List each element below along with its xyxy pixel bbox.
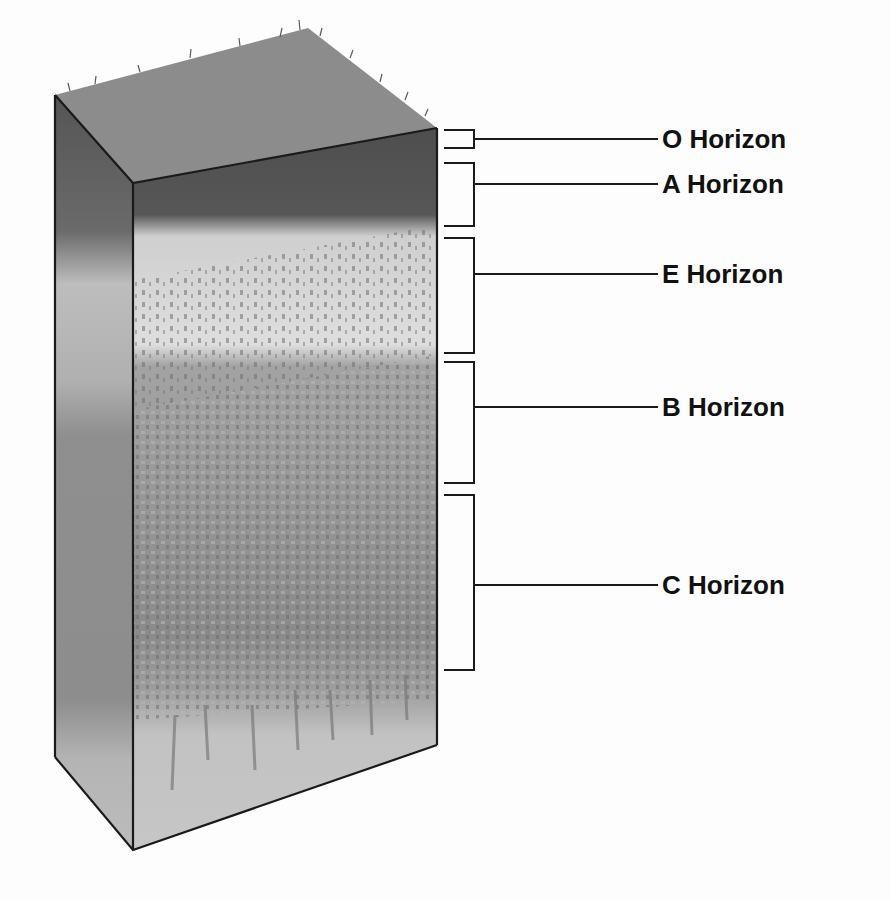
bracket-e-horizon — [444, 238, 658, 353]
label-c-horizon: C Horizon — [662, 572, 785, 598]
label-e-horizon: E Horizon — [662, 261, 783, 287]
bracket-o-horizon — [444, 130, 658, 148]
label-b-horizon: B Horizon — [662, 394, 785, 420]
label-o-horizon: O Horizon — [662, 126, 786, 152]
horizon-brackets — [444, 130, 658, 670]
bracket-b-horizon — [444, 362, 658, 483]
bracket-a-horizon — [444, 163, 658, 226]
profile-side-face — [55, 95, 133, 850]
label-a-horizon: A Horizon — [662, 171, 784, 197]
bracket-c-horizon — [444, 495, 658, 670]
